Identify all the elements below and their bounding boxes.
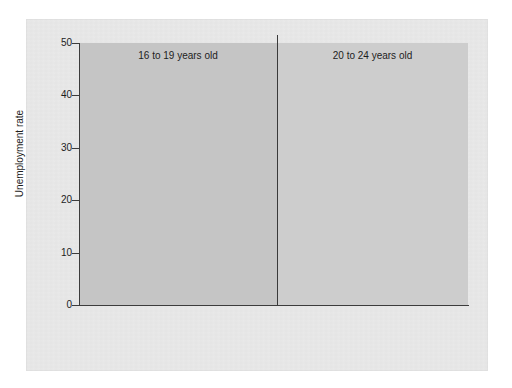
y-tick-mark [72,95,79,96]
plot-area [79,43,468,305]
y-tick-mark [72,253,79,254]
y-tick-label-wrap: 20 [38,195,72,205]
y-tick-label: 40 [46,90,72,100]
y-tick-label-wrap: 50 [38,38,72,48]
y-axis-line [79,43,80,306]
y-tick-label: 50 [46,38,72,48]
y-tick-mark [72,43,79,44]
y-tick-mark [72,200,79,201]
y-tick-label: 0 [46,300,72,310]
chart-screenshot: 01020304050 Unemployment rate 16 to 19 y… [0,0,512,388]
chart-legend [79,340,469,356]
panel-background-right [277,43,468,305]
y-tick-label-wrap: 0 [38,300,72,310]
y-tick-label-wrap: 40 [38,90,72,100]
y-tick-label: 30 [46,143,72,153]
panel-divider [277,35,278,305]
panel-background-left [79,43,277,305]
x-axis-line [79,305,469,306]
y-tick-mark [72,148,79,149]
panel-title-20-to-24: 20 to 24 years old [277,50,468,61]
y-tick-label-wrap: 30 [38,143,72,153]
panel-title-16-to-19: 16 to 19 years old [79,50,277,61]
y-tick-label: 20 [46,195,72,205]
y-axis-title: Unemployment rate [14,99,25,209]
y-tick-label-wrap: 10 [38,248,72,258]
y-tick-mark [72,305,79,306]
y-tick-label: 10 [46,248,72,258]
